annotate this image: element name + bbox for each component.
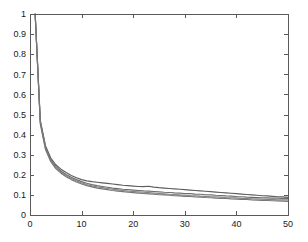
x-tick-label: 50 — [283, 219, 293, 229]
x-tick-label: 20 — [128, 219, 138, 229]
y-tick-label: 0.9 — [13, 29, 26, 39]
y-tick-label: 0.5 — [13, 110, 26, 120]
x-tick-label: 30 — [180, 219, 190, 229]
y-tick-label: 0 — [21, 210, 26, 220]
x-tick-label: 40 — [231, 219, 241, 229]
y-tick-label: 0.8 — [13, 49, 26, 59]
plot-area-background — [30, 14, 288, 215]
line-chart: 00.10.20.30.40.50.60.70.80.91 0102030405… — [0, 0, 308, 242]
y-tick-label: 0.4 — [13, 130, 26, 140]
y-tick-label: 0.3 — [13, 150, 26, 160]
figure-canvas: 00.10.20.30.40.50.60.70.80.91 0102030405… — [0, 0, 308, 242]
y-tick-label: 1 — [21, 9, 26, 19]
y-tick-label: 0.2 — [13, 170, 26, 180]
y-tick-label: 0.1 — [13, 190, 26, 200]
x-tick-label: 10 — [77, 219, 87, 229]
y-tick-label: 0.7 — [13, 70, 26, 80]
x-tick-label: 0 — [27, 219, 32, 229]
y-tick-label: 0.6 — [13, 90, 26, 100]
